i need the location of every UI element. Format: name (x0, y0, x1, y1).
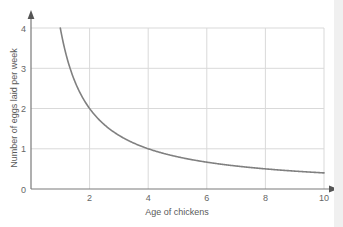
right-margin-strip (334, 0, 343, 227)
x-tick-label-10: 10 (319, 193, 329, 203)
y-tick-label-4: 4 (21, 24, 26, 34)
x-tick-label-6: 6 (204, 193, 209, 203)
x-tick-label-8: 8 (263, 193, 268, 203)
y-axis-arrow-icon (28, 10, 35, 19)
x-tick-label-4: 4 (146, 193, 151, 203)
y-tick-label-3: 3 (21, 64, 26, 74)
y-tick-label-2: 2 (21, 104, 26, 114)
y-axis-title: Number of eggs laid per week (9, 48, 19, 168)
y-tick-label-1: 1 (21, 144, 26, 154)
line-chart: 4 3 2 1 0 2 4 6 8 10 Age of chickens Num… (0, 0, 343, 227)
x-axis-title: Age of chickens (145, 207, 209, 217)
chart-figure: 4 3 2 1 0 2 4 6 8 10 Age of chickens Num… (0, 0, 343, 227)
x-tick-label-2: 2 (87, 193, 92, 203)
y-tick-label-0: 0 (21, 185, 26, 195)
